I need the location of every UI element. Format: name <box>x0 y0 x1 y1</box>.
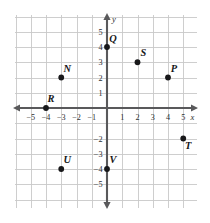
y-tick-label: 2 <box>98 74 102 83</box>
x-axis-arrow-right <box>191 104 198 111</box>
y-axis-arrow-down <box>103 202 110 209</box>
x-tick-label: −4 <box>42 113 51 122</box>
y-tick-label: −2 <box>94 135 103 144</box>
point-label-q: Q <box>109 33 117 44</box>
x-axis-arrow-left <box>13 104 20 111</box>
point-dot-s <box>135 59 141 65</box>
point-label-r: R <box>47 93 55 104</box>
coordinate-plane-svg: −5−4−3−2−11234554321−2−3−4−5 xy QSPNRTVU <box>0 0 210 223</box>
x-tick-label: 4 <box>166 113 170 122</box>
axes <box>13 13 198 209</box>
x-tick-label: 1 <box>120 113 124 122</box>
y-tick-label: 5 <box>98 28 102 37</box>
coordinate-plane-figure: −5−4−3−2−11234554321−2−3−4−5 xy QSPNRTVU <box>0 0 210 223</box>
x-tick-label: −1 <box>87 113 96 122</box>
y-tick-label: −5 <box>94 180 103 189</box>
point-label-u: U <box>63 154 71 165</box>
x-axis-name: x <box>190 112 195 122</box>
point-label-v: V <box>110 154 118 165</box>
x-tick-label: 5 <box>181 113 185 122</box>
y-tick-label: −3 <box>94 150 103 159</box>
point-label-n: N <box>62 63 71 74</box>
point-dot-p <box>165 75 171 81</box>
y-axis-arrow-up <box>103 13 110 20</box>
y-tick-label: −4 <box>94 165 103 174</box>
x-tick-label: −2 <box>72 113 81 122</box>
x-tick-label: 3 <box>151 113 155 122</box>
grid-lines <box>15 15 197 208</box>
point-dot-n <box>58 75 64 81</box>
y-tick-label: 1 <box>98 89 102 98</box>
plotted-points: QSPNRTVU <box>43 33 192 172</box>
point-label-t: T <box>185 140 192 151</box>
x-tick-label: −3 <box>57 113 66 122</box>
y-tick-label: 4 <box>98 43 102 52</box>
point-dot-u <box>58 166 64 172</box>
y-tick-label: 3 <box>98 58 102 67</box>
point-label-p: P <box>171 63 178 74</box>
y-axis-name: y <box>111 14 116 24</box>
point-label-s: S <box>141 47 147 58</box>
point-dot-r <box>43 105 49 111</box>
point-dot-q <box>104 44 110 50</box>
x-tick-label: 2 <box>135 113 139 122</box>
point-dot-v <box>104 166 110 172</box>
x-tick-label: −5 <box>26 113 35 122</box>
